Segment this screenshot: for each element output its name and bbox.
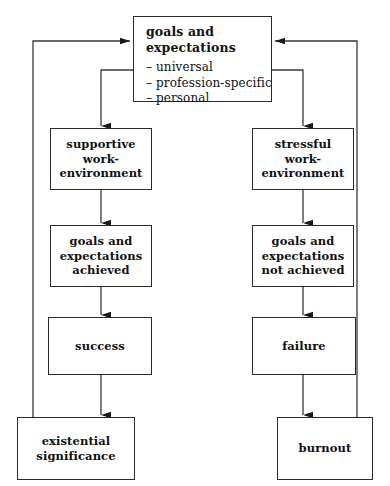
node-burnout-label: burnout — [299, 441, 352, 456]
node-failure[interactable]: failure — [252, 317, 356, 375]
node-stressful-line-2: work- — [285, 152, 321, 167]
node-supportive-line-3: environment — [59, 166, 142, 181]
edge-goals-to-stressful — [272, 70, 303, 126]
node-goals-expectations-title: goals and expectations — [146, 24, 271, 56]
node-stressful-line-1: stressful — [275, 137, 332, 152]
node-success-label: success — [75, 339, 125, 354]
node-goals-not-achieved[interactable]: goals and expectations not achieved — [252, 225, 354, 287]
edge-goals-to-supportive — [101, 70, 133, 126]
node-goals-achieved-line-3: achieved — [72, 263, 129, 278]
bullet-universal: – universal — [146, 60, 272, 76]
node-failure-label: failure — [282, 339, 326, 354]
node-supportive-line-1: supportive — [66, 137, 135, 152]
bullet-personal: – personal — [146, 91, 272, 107]
node-existential-line-1: existential — [42, 434, 111, 449]
node-goals-achieved-line-1: goals and — [70, 234, 133, 249]
node-goals-achieved[interactable]: goals and expectations achieved — [50, 225, 152, 287]
node-supportive-line-2: work- — [83, 152, 119, 167]
bullet-profession-specific: – profession-specific — [146, 76, 272, 92]
node-goals-not-achieved-line-1: goals and — [272, 234, 335, 249]
node-goals-achieved-line-2: expectations — [60, 249, 143, 264]
flowchart-diagram: goals and expectations – universal – pro… — [0, 0, 390, 486]
node-supportive-work-environment[interactable]: supportive work- environment — [50, 128, 152, 190]
node-stressful-line-3: environment — [261, 166, 344, 181]
node-stressful-work-environment[interactable]: stressful work- environment — [252, 128, 354, 190]
node-goals-expectations[interactable]: goals and expectations – universal – pro… — [133, 16, 272, 102]
node-existential-line-2: significance — [36, 449, 115, 464]
node-burnout[interactable]: burnout — [277, 417, 373, 480]
node-goals-not-achieved-line-3: not achieved — [261, 263, 344, 278]
node-goals-not-achieved-line-2: expectations — [262, 249, 345, 264]
node-success[interactable]: success — [48, 317, 152, 375]
node-existential-significance[interactable]: existential significance — [17, 417, 135, 480]
node-goals-expectations-bullets: – universal – profession-specific – pers… — [146, 60, 272, 107]
